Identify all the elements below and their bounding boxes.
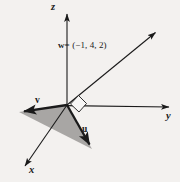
x-axis-label: x	[29, 165, 34, 176]
vector-diagram-figure: z y x v u w= (−1, 4, 2)	[0, 0, 180, 182]
z-axis-label: z	[51, 2, 55, 13]
diagram-canvas	[0, 0, 180, 182]
vector-w-equation: w= (−1, 4, 2)	[58, 41, 107, 50]
y-axis-label: y	[166, 111, 171, 122]
right-angle-marker	[71, 96, 87, 113]
vector-w-label: w	[58, 40, 65, 50]
vector-v-label: v	[35, 96, 40, 106]
vector-w-equation-text: = (−1, 4, 2)	[65, 40, 107, 50]
vector-u-label: u	[82, 125, 87, 135]
